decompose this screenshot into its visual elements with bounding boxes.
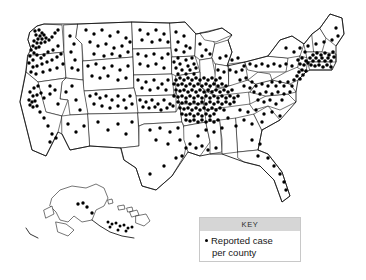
key-entry-text-line2: per county xyxy=(205,247,300,259)
state-boundaries xyxy=(20,14,344,202)
map-key-legend: KEY Reported case per county xyxy=(199,217,301,262)
us-map-svg xyxy=(0,0,366,280)
key-header-label: KEY xyxy=(200,218,300,231)
key-body: Reported case per county xyxy=(200,231,300,258)
key-entry-line1: Reported case xyxy=(205,235,300,247)
key-bullet-icon xyxy=(205,239,208,242)
hawaii-inset xyxy=(108,199,150,226)
key-entry-text-line1: Reported case xyxy=(211,235,273,246)
dot-density-map-figure: KEY Reported case per county xyxy=(0,0,366,280)
